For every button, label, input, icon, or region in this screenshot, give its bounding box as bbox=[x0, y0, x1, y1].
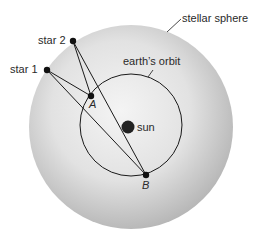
star2-marker bbox=[70, 38, 76, 44]
sun-label: sun bbox=[137, 121, 155, 133]
stellar-parallax-diagram: sun star 1 star 2 A B earth’s orbit stel… bbox=[0, 0, 261, 236]
point-b-label: B bbox=[142, 179, 149, 191]
star2-label: star 2 bbox=[38, 34, 66, 46]
point-b-marker bbox=[143, 172, 149, 178]
star1-label: star 1 bbox=[10, 63, 38, 75]
sun-marker bbox=[122, 121, 135, 134]
earth-orbit-label: earth’s orbit bbox=[123, 55, 180, 67]
star1-marker bbox=[44, 67, 50, 73]
point-a-label: A bbox=[88, 98, 96, 110]
stellar-sphere-label: stellar sphere bbox=[182, 12, 248, 24]
stellar-sphere-leader bbox=[167, 19, 181, 32]
